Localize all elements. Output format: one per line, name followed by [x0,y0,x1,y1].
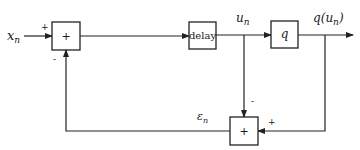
summer-block-2: + [230,117,258,145]
svg-text:q: q [281,27,289,41]
input-label: xn [7,28,20,45]
quantizer-block: q [271,21,298,48]
block-diagram: xn + - + delay un q q(un) - + + εn [0,0,360,150]
summer-block-1: + [52,22,80,50]
u-n-label: un [236,11,250,27]
error-label: εn [197,110,208,125]
svg-text:+: + [239,125,248,138]
sum1-plus-sign: + [41,22,49,32]
q-output-label: q(un) [313,11,344,27]
sum2-minus-sign: - [251,96,254,106]
sum1-minus-sign: - [53,54,56,64]
svg-text:delay: delay [189,30,216,41]
delay-block: delay [189,22,216,49]
sum2-plus-sign: + [268,117,276,127]
svg-text:+: + [61,30,70,43]
